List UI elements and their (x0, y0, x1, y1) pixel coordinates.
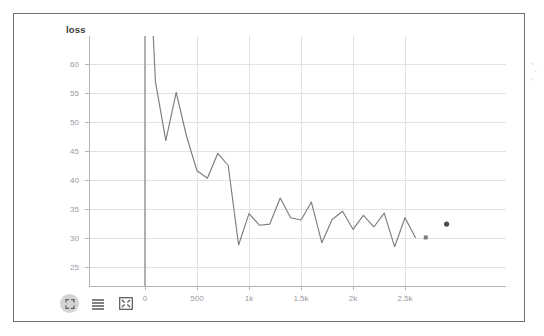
y-tick-marks (85, 64, 89, 267)
loss-series-line (145, 14, 415, 247)
x-tick-label: 2.5k (397, 294, 413, 303)
scan-artifact (531, 62, 534, 65)
y-tick-label: 45 (70, 147, 79, 156)
expand-icon[interactable] (60, 294, 79, 313)
x-tick-marks (145, 286, 405, 290)
y-tick-label: 40 (70, 176, 79, 185)
final-point-marker (444, 221, 449, 226)
y-tick-label: 50 (70, 118, 79, 127)
fit-frame-icon[interactable] (116, 294, 135, 313)
scan-artifact (534, 70, 537, 72)
series-end-marker (424, 235, 428, 239)
y-tick-label: 30 (70, 234, 79, 243)
horizontal-gridlines (89, 64, 506, 267)
scan-artifact (531, 78, 533, 81)
x-tick-label: 1.5k (293, 294, 309, 303)
y-tick-label: 55 (70, 89, 79, 98)
x-tick-label: 0 (143, 294, 148, 303)
y-tick-label: 60 (70, 60, 79, 69)
chart-screenshot-root: loss (0, 0, 544, 336)
y-tick-label: 25 (70, 263, 79, 272)
loss-line-chart[interactable]: 60 55 50 45 40 35 30 25 (14, 14, 526, 323)
y-tick-labels: 60 55 50 45 40 35 30 25 (70, 60, 79, 272)
x-tick-label: 500 (190, 294, 204, 303)
chart-card: loss (13, 13, 525, 322)
x-tick-labels: 0 500 1k 1.5k 2k 2.5k (143, 294, 414, 303)
y-tick-label: 35 (70, 205, 79, 214)
x-tick-label: 2k (349, 294, 358, 303)
plot-area[interactable]: 60 55 50 45 40 35 30 25 (14, 14, 526, 323)
list-lines-icon[interactable] (88, 294, 107, 313)
x-tick-label: 1k (245, 294, 254, 303)
vertical-gridlines (197, 36, 405, 286)
chart-toolbar[interactable] (60, 294, 135, 313)
